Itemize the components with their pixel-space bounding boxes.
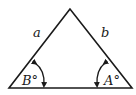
side-label-a: a bbox=[33, 25, 41, 40]
angle-label-b: B° bbox=[21, 73, 38, 88]
triangle-diagram: a b B° A° bbox=[0, 0, 136, 95]
side-label-b: b bbox=[101, 25, 109, 40]
angle-label-a: A° bbox=[103, 73, 120, 88]
